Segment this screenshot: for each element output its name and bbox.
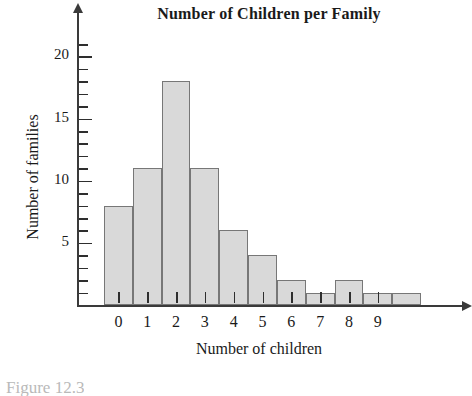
y-axis-major-tick: [79, 119, 92, 121]
y-axis-minor-tick: [79, 230, 88, 232]
y-axis-minor-tick: [79, 143, 88, 145]
x-axis-tick-label: 1: [136, 313, 158, 331]
x-axis-tick: [349, 292, 351, 303]
y-axis-major-tick: [79, 181, 92, 183]
y-axis-tick-label: 5: [35, 233, 69, 250]
y-axis-minor-tick: [79, 94, 88, 96]
y-axis-minor-tick: [79, 131, 88, 133]
y-axis-minor-tick: [79, 81, 88, 83]
bar: [133, 168, 162, 305]
y-axis-minor-tick: [79, 206, 88, 208]
x-axis-tick-label: 0: [107, 313, 129, 331]
y-axis-minor-tick: [79, 255, 88, 257]
y-axis-tick-label: 20: [35, 46, 69, 63]
y-axis-minor-tick: [79, 168, 88, 170]
x-axis-tick-label: 3: [194, 313, 216, 331]
y-axis-minor-tick: [79, 44, 88, 46]
chart-title: Number of Children per Family: [104, 5, 434, 23]
y-axis-tick-label: 10: [35, 171, 69, 188]
x-axis-tick: [205, 292, 207, 303]
y-axis-minor-tick: [79, 268, 88, 270]
y-axis-minor-tick: [79, 106, 88, 108]
y-axis-minor-tick: [79, 218, 88, 220]
x-axis-tick: [320, 292, 322, 303]
y-axis-major-tick: [79, 243, 92, 245]
x-axis-tick-label: 5: [252, 313, 274, 331]
bar: [190, 168, 219, 305]
figure-caption: Figure 12.3: [6, 378, 84, 396]
bar: [104, 206, 133, 305]
y-axis-minor-tick: [79, 280, 88, 282]
x-axis-tick: [263, 292, 265, 303]
y-axis-minor-tick: [79, 69, 88, 71]
x-axis-tick: [234, 292, 236, 303]
x-axis-tick: [118, 292, 120, 303]
bar: [162, 81, 191, 305]
y-axis-minor-tick: [79, 193, 88, 195]
x-axis-arrow-icon: [462, 301, 472, 311]
y-axis-minor-tick: [79, 293, 88, 295]
y-axis-major-tick: [79, 56, 92, 58]
x-axis-tick-label: 7: [309, 313, 331, 331]
x-axis-tick: [378, 292, 380, 303]
y-axis-minor-tick: [79, 156, 88, 158]
bar: [392, 293, 421, 305]
x-axis-label: Number of children: [104, 340, 414, 358]
x-axis-tick: [176, 292, 178, 303]
x-axis-tick-label: 2: [165, 313, 187, 331]
x-axis-tick-label: 4: [223, 313, 245, 331]
x-axis-tick: [147, 292, 149, 303]
x-axis-line: [77, 305, 462, 307]
x-axis-tick-label: 8: [338, 313, 360, 331]
x-axis-tick-label: 9: [367, 313, 389, 331]
x-axis-tick: [291, 292, 293, 303]
x-axis-tick-label: 6: [280, 313, 302, 331]
y-axis-tick-label: 15: [35, 109, 69, 126]
y-axis-arrow-icon: [73, 3, 83, 13]
